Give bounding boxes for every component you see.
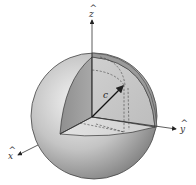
z-axis-hat: ^	[90, 3, 98, 13]
x-axis-hat: ^	[9, 145, 17, 155]
cut-face-yz	[92, 57, 155, 127]
vector-c-label: c	[103, 90, 108, 100]
sphere-diagram: z ^ y ^ x ^ c	[0, 0, 196, 185]
y-axis-hat: ^	[181, 118, 189, 128]
